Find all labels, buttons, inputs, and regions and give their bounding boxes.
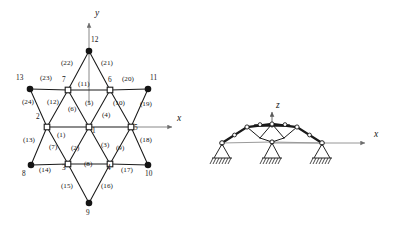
support-center xyxy=(262,143,282,158)
support-right-hatch xyxy=(310,158,331,164)
right-joints xyxy=(220,122,325,145)
member-24 xyxy=(30,89,47,127)
x-axis-label: x xyxy=(177,114,181,124)
support-center-hatch xyxy=(260,158,281,164)
member-label-23: (23) xyxy=(40,75,52,82)
node-5 xyxy=(128,124,134,130)
node-2 xyxy=(44,124,50,130)
joint-node xyxy=(308,133,312,137)
member-label-13: (13) xyxy=(23,137,35,144)
node-label-5: 5 xyxy=(134,124,138,131)
node-13 xyxy=(27,86,34,93)
node-9 xyxy=(86,200,93,207)
node-label-2: 2 xyxy=(36,113,40,120)
node-label-8: 8 xyxy=(22,170,26,177)
member-label-3: (3) xyxy=(101,142,109,149)
member-5 xyxy=(89,90,110,127)
support-left xyxy=(212,144,232,158)
member-label-6: (6) xyxy=(68,106,76,113)
joint-node xyxy=(270,122,274,126)
joint-node xyxy=(295,125,299,129)
joint-node xyxy=(245,125,249,129)
member-10 xyxy=(110,90,131,127)
node-11 xyxy=(145,86,152,93)
node-label-7: 7 xyxy=(62,76,66,83)
member-label-4: (4) xyxy=(102,112,110,119)
member-label-17: (17) xyxy=(121,167,133,174)
joint-node xyxy=(283,123,287,127)
member-18 xyxy=(131,127,148,165)
node-label-10: 10 xyxy=(145,170,152,177)
figure-svg xyxy=(0,0,399,225)
support-left-hatch xyxy=(210,158,231,164)
joint-node xyxy=(258,123,262,127)
member-label-1: (1) xyxy=(57,132,65,139)
member-label-20: (20) xyxy=(122,76,134,83)
node-10 xyxy=(145,162,152,169)
member-label-22: (22) xyxy=(61,60,73,67)
node-label-6: 6 xyxy=(108,76,112,83)
node-label-4: 4 xyxy=(107,164,111,171)
web-center-diag xyxy=(247,127,297,138)
node-label-1: 1 xyxy=(92,127,96,134)
member-label-19: (19) xyxy=(140,101,152,108)
node-label-13: 13 xyxy=(16,74,23,81)
node-3 xyxy=(65,161,71,167)
node-label-3: 3 xyxy=(62,164,66,171)
node-1 xyxy=(86,124,92,130)
right-truss xyxy=(210,112,365,164)
member-23 xyxy=(30,89,68,90)
node-7 xyxy=(65,87,71,93)
node-8 xyxy=(28,162,35,169)
member-label-14: (14) xyxy=(39,167,51,174)
member-21 xyxy=(89,51,110,90)
y-axis-label: y xyxy=(95,9,99,19)
member-label-24: (24) xyxy=(22,99,34,106)
figure-container: y x 1 2 3 4 5 6 7 8 9 10 11 12 13 (1) (2… xyxy=(0,0,399,225)
member-label-9: (9) xyxy=(116,145,124,152)
member-label-10: (10) xyxy=(113,100,125,107)
member-label-21: (21) xyxy=(101,60,113,67)
member-13 xyxy=(31,127,47,165)
member-label-8: (8) xyxy=(84,161,92,168)
node-label-9: 9 xyxy=(86,209,90,216)
member-label-7: (7) xyxy=(49,144,57,151)
support-right xyxy=(312,144,332,158)
node-label-11: 11 xyxy=(150,74,157,81)
member-label-16: (16) xyxy=(101,183,113,190)
member-label-5: (5) xyxy=(85,100,93,107)
node-12 xyxy=(86,48,93,55)
member-label-12: (12) xyxy=(47,99,59,106)
node-label-12: 12 xyxy=(91,36,98,43)
member-label-18: (18) xyxy=(140,137,152,144)
member-label-15: (15) xyxy=(61,183,73,190)
joint-node xyxy=(233,133,237,137)
right-x-axis-label: x xyxy=(374,130,378,140)
member-17 xyxy=(110,164,148,165)
member-12 xyxy=(47,90,68,127)
right-z-axis-label: z xyxy=(276,101,280,111)
member-label-11: (11) xyxy=(78,81,90,88)
member-20 xyxy=(110,89,148,90)
member-label-2: (2) xyxy=(71,145,79,152)
node-6 xyxy=(107,87,113,93)
supports xyxy=(210,143,332,164)
